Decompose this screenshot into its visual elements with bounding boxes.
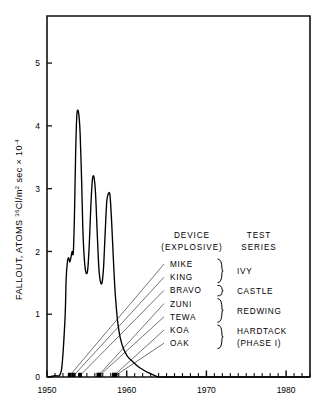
x-tick-label: 1980 bbox=[277, 385, 296, 395]
axis-event-marker bbox=[72, 373, 76, 377]
x-tick-label: 1950 bbox=[38, 385, 57, 395]
y-tick-label: 3 bbox=[35, 184, 40, 194]
legend-device-label: ZUNI bbox=[170, 300, 192, 309]
y-axis-label: FALLOUT, ATOMS 36Cl/m2 sec × 10-4 bbox=[14, 139, 25, 300]
plot-frame bbox=[47, 16, 310, 377]
chart-canvas: FALLOUT, ATOMS 36Cl/m2 sec × 10-4 012345… bbox=[0, 0, 325, 410]
legend-device-label: MIKE bbox=[170, 260, 193, 269]
legend-series-label: HARDTACK bbox=[237, 327, 287, 336]
y-axis-label-group: FALLOUT, ATOMS 36Cl/m2 sec × 10-4 bbox=[14, 139, 25, 300]
axis-event-marker bbox=[114, 373, 118, 377]
x-tick-label: 1970 bbox=[197, 385, 216, 395]
x-axis-tick-labels: 1950196019701980 bbox=[38, 385, 296, 395]
legend: DEVICE(EXPLOSIVE)TESTSERIESMIKEKINGBRAVO… bbox=[161, 231, 287, 349]
legend-leader-line bbox=[80, 290, 164, 375]
x-tick-label: 1960 bbox=[117, 385, 136, 395]
legend-device-label: TEWA bbox=[170, 313, 196, 322]
legend-header-test: TEST bbox=[247, 231, 272, 240]
legend-leader-line bbox=[114, 330, 164, 376]
y-tick-label: 1 bbox=[35, 309, 40, 319]
y-tick-label: 5 bbox=[35, 58, 40, 68]
legend-header-explosive: (EXPLOSIVE) bbox=[161, 243, 222, 252]
legend-device-label: BRAVO bbox=[170, 286, 202, 295]
legend-device-label: KOA bbox=[170, 326, 189, 335]
axis-event-marker bbox=[68, 373, 72, 377]
legend-group-bracket bbox=[218, 259, 224, 283]
legend-device-label: OAK bbox=[170, 339, 189, 348]
legend-device-label: KING bbox=[170, 273, 193, 282]
y-axis-ticks: 012345 bbox=[35, 58, 52, 382]
legend-series-label: CASTLE bbox=[237, 287, 273, 296]
legend-series-sublabel: (PHASE I) bbox=[237, 339, 281, 348]
legend-group-bracket bbox=[218, 299, 224, 323]
legend-series-label: IVY bbox=[237, 267, 252, 276]
axis-event-marker bbox=[98, 373, 102, 377]
legend-series-label: REDWING bbox=[237, 307, 281, 316]
legend-header-series: SERIES bbox=[241, 243, 276, 252]
legend-group-bracket bbox=[218, 325, 224, 349]
axis-event-marker bbox=[78, 373, 82, 377]
y-tick-label: 4 bbox=[35, 121, 40, 131]
fallout-chart-figure: FALLOUT, ATOMS 36Cl/m2 sec × 10-4 012345… bbox=[0, 0, 325, 410]
y-tick-label: 2 bbox=[35, 247, 40, 257]
legend-group-bracket bbox=[218, 285, 224, 296]
y-tick-label: 0 bbox=[35, 372, 40, 382]
legend-header-device: DEVICE bbox=[174, 231, 210, 240]
legend-leader-line bbox=[98, 304, 164, 376]
